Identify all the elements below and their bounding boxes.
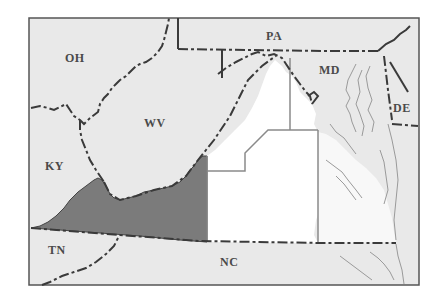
state-label-md: MD	[319, 63, 340, 77]
state-label-tn: TN	[48, 243, 66, 257]
state-label-wv: WV	[144, 116, 166, 130]
state-label-pa: PA	[266, 29, 282, 43]
map: OH PA MD WV DE KY TN NC	[0, 0, 444, 306]
state-label-nc: NC	[220, 255, 238, 269]
state-label-de: DE	[393, 101, 411, 115]
state-label-oh: OH	[65, 51, 85, 65]
state-label-ky: KY	[45, 159, 64, 173]
